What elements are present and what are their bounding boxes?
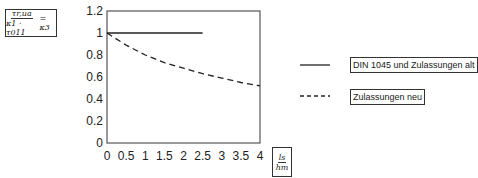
y-axis-ticks: 00.20.40.60.811.2 <box>86 4 103 150</box>
legend-item-zulassungen-neu: Zulassungen neu <box>350 89 425 105</box>
svg-text:3: 3 <box>218 149 225 163</box>
x-axis-ticks: 00.511.522.533.54 <box>104 149 264 163</box>
plot-frame <box>107 11 260 143</box>
svg-text:0.2: 0.2 <box>86 114 103 128</box>
svg-text:0: 0 <box>96 136 103 150</box>
y-label-denominator: κ1 · τ011 <box>6 19 38 37</box>
legend-item-din-1045: DIN 1045 und Zulassungen alt <box>350 57 478 73</box>
x-label-denominator: hm <box>276 163 289 172</box>
svg-text:0.4: 0.4 <box>86 92 103 106</box>
y-label-numerator: τr,ua <box>11 9 33 19</box>
y-axis-label: τr,ua κ1 · τ011 = κ3 <box>5 9 57 37</box>
svg-text:2.5: 2.5 <box>194 149 211 163</box>
svg-text:1.2: 1.2 <box>86 4 103 18</box>
svg-text:0.8: 0.8 <box>86 48 103 62</box>
svg-text:2: 2 <box>180 149 187 163</box>
svg-text:1.5: 1.5 <box>156 149 173 163</box>
svg-text:0: 0 <box>104 149 111 163</box>
svg-text:1: 1 <box>96 26 103 40</box>
svg-text:1: 1 <box>142 149 149 163</box>
svg-text:0.6: 0.6 <box>86 70 103 84</box>
svg-text:3.5: 3.5 <box>233 149 250 163</box>
data-series <box>107 33 260 86</box>
legend-swatches <box>300 65 330 96</box>
svg-text:0.5: 0.5 <box>118 149 135 163</box>
x-axis-label: ls hm <box>272 147 292 177</box>
x-label-numerator: ls <box>278 153 287 163</box>
svg-text:4: 4 <box>257 149 264 163</box>
y-label-rhs: = κ3 <box>40 14 56 32</box>
